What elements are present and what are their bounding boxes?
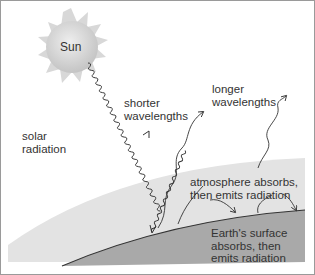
sun-label: Sun [60,40,81,54]
atmosphere-label: atmosphere absorbs, then emits radiation [190,176,298,201]
solar-radiation-label: solar radiation [22,130,66,155]
shorter-wavelengths-label: shorter wavelengths [124,97,188,122]
earth-surface-label: Earth's surface absorbs, then emits radi… [211,227,287,265]
longer-wavelengths-label: longer wavelengths [212,83,276,108]
greenhouse-diagram: Sun solar radiation shorter wavelengths … [0,0,315,275]
